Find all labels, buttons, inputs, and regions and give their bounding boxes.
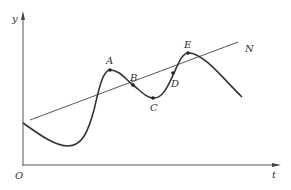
trend-line-label: N bbox=[244, 43, 255, 54]
y-axis-label: y bbox=[11, 13, 18, 24]
point-b-label: B bbox=[129, 72, 137, 83]
point-d-marker bbox=[171, 71, 175, 75]
point-a-label: A bbox=[105, 55, 113, 66]
origin-label: O bbox=[15, 170, 23, 181]
x-axis-label: t bbox=[272, 169, 277, 180]
y-axis-arrow-icon bbox=[21, 11, 25, 20]
point-a-marker bbox=[108, 68, 112, 72]
diagram-canvas: y t O N A B C D E bbox=[0, 0, 291, 190]
point-c-label: C bbox=[150, 102, 158, 113]
x-axis-arrow-icon bbox=[272, 163, 281, 167]
point-d-label: D bbox=[170, 78, 179, 89]
point-e-label: E bbox=[183, 39, 192, 50]
point-b-marker bbox=[131, 83, 135, 87]
point-e-marker bbox=[186, 51, 190, 55]
point-c-marker bbox=[151, 96, 155, 100]
oscillating-curve bbox=[23, 53, 242, 146]
